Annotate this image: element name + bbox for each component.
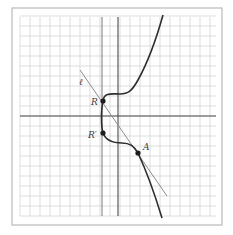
label-A: A: [142, 142, 150, 152]
label-line-l: ℓ: [79, 77, 83, 87]
curve-diagram: ℓ R R′ A: [0, 0, 233, 235]
point-R: [100, 98, 105, 103]
label-R-prime: R′: [87, 130, 97, 140]
point-R-prime: [100, 130, 105, 135]
label-R: R: [90, 97, 98, 107]
point-A: [135, 150, 140, 155]
